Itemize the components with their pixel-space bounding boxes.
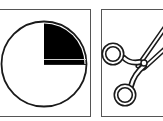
pie-quarter-icon: [2, 22, 87, 107]
scissors-icon: [104, 26, 163, 104]
drawing-canvas: [0, 0, 163, 121]
